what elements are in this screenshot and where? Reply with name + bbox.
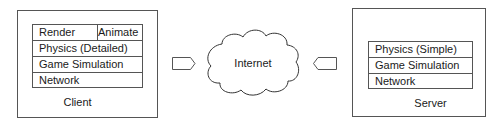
server-layer-game-simulation: Game Simulation — [369, 58, 472, 74]
server-label: Server — [403, 97, 458, 109]
server-layer-network-label: Network — [375, 74, 415, 90]
right-arrow-icon — [173, 58, 196, 70]
internet-label: Internet — [223, 57, 283, 69]
server-layer-stack: Physics (Simple) Game Simulation Network — [368, 41, 473, 89]
server-layer-game-simulation-label: Game Simulation — [375, 58, 459, 73]
server-layer-physics-label: Physics (Simple) — [375, 42, 457, 57]
left-arrow-icon — [314, 58, 337, 70]
server-layer-network: Network — [369, 74, 472, 90]
server-layer-physics: Physics (Simple) — [369, 42, 472, 58]
